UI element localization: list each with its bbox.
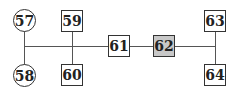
connector-57-58: [24, 30, 25, 65]
connector-61-62: [130, 46, 153, 47]
node-62-highlighted: 62: [153, 35, 175, 57]
connector-62-right: [175, 46, 216, 47]
node-61: 61: [108, 35, 130, 57]
node-64: 64: [204, 64, 226, 86]
node-57: 57: [13, 9, 36, 32]
node-60: 60: [61, 64, 83, 86]
connector-63-64: [215, 32, 216, 64]
connector-horizontal-left: [24, 46, 108, 47]
node-58: 58: [13, 64, 36, 87]
node-59: 59: [61, 10, 83, 32]
connector-59-60: [72, 32, 73, 64]
node-63: 63: [204, 10, 226, 32]
